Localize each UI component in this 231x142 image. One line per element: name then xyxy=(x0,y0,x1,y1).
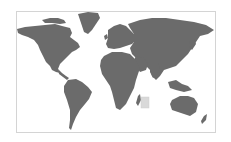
madagascar xyxy=(136,94,141,106)
arctic-islands xyxy=(42,18,66,24)
africa xyxy=(100,52,140,110)
north-america xyxy=(17,24,80,73)
greenland xyxy=(78,12,100,34)
highlight-region[interactable] xyxy=(141,97,149,108)
southeast-asia-islands xyxy=(168,80,192,92)
uk xyxy=(104,34,108,40)
australia xyxy=(170,96,198,116)
south-america xyxy=(64,79,92,130)
new-zealand xyxy=(201,114,207,124)
central-america xyxy=(58,69,69,80)
world-map xyxy=(0,0,231,142)
